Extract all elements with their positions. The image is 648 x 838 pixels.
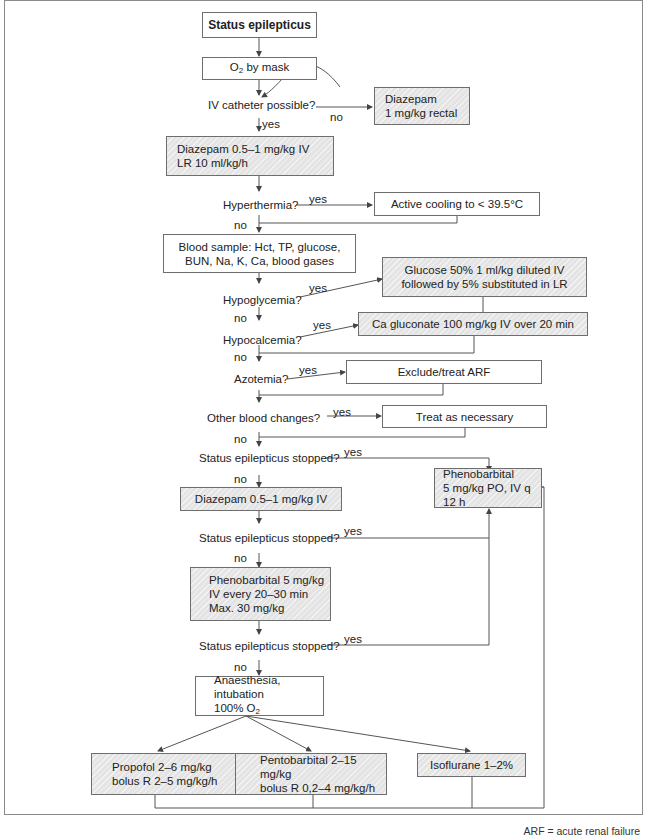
edge-label-no: no xyxy=(234,350,247,364)
node-isoflurane: Isoflurane 1–2% xyxy=(417,753,526,777)
node-active-cooling: Active cooling to < 39.5°C xyxy=(374,192,540,216)
question-iv-catheter: IV catheter possible? xyxy=(208,98,315,112)
node-label: Phenobarbital xyxy=(443,467,514,481)
node-label: Isoflurane 1–2% xyxy=(430,758,513,772)
node-propofol: Propofol 2–6 mg/kg bolus R 2–5 mg/kg/h xyxy=(91,753,237,795)
node-label: IV every 20–30 min xyxy=(209,587,308,601)
node-label: Diazepam xyxy=(385,92,437,106)
node-label: bolus R 2–5 mg/kg/h xyxy=(112,774,217,788)
edge-label-yes: yes xyxy=(299,363,317,377)
node-label: O2 by mask xyxy=(230,60,289,78)
edge-label-no: no xyxy=(234,551,247,565)
edge-label-yes: yes xyxy=(309,281,327,295)
edge-label-yes: yes xyxy=(333,405,351,419)
node-treat-as-necessary: Treat as necessary xyxy=(382,405,547,428)
node-anaesthesia: Anaesthesia, intubation 100% O2 xyxy=(195,676,324,716)
node-label: bolus R 0,2–4 mg/kg/h xyxy=(260,781,375,795)
node-diazepam-iv: Diazepam 0.5–1 mg/kg IV xyxy=(180,487,342,511)
edge-label-no: no xyxy=(234,432,247,446)
question-hypocalcemia: Hypocalcemia? xyxy=(223,333,302,347)
node-label: Max. 30 mg/kg xyxy=(209,601,284,615)
node-label: LR 10 ml/kg/h xyxy=(177,156,248,170)
node-label: followed by 5% substituted in LR xyxy=(401,277,567,291)
node-label: Phenobarbital 5 mg/kg xyxy=(209,573,324,587)
question-azotemia: Azotemia? xyxy=(234,372,288,386)
node-status-epilepticus: Status epilepticus xyxy=(202,12,317,38)
question-stopped-1: Status epilepticus stopped? xyxy=(199,451,340,465)
edge-label-yes: yes xyxy=(344,524,362,538)
edge-label-no: no xyxy=(234,660,247,674)
question-stopped-2: Status epilepticus stopped? xyxy=(199,531,340,545)
node-label: Anaesthesia, intubation xyxy=(214,673,323,701)
question-other-blood-changes: Other blood changes? xyxy=(207,411,320,425)
edge-label-no: no xyxy=(234,218,247,232)
node-label: Diazepam 0.5–1 mg/kg IV xyxy=(195,492,327,506)
edge-label-no: no xyxy=(330,110,343,124)
node-blood-sample: Blood sample: Hct, TP, glucose, BUN, Na,… xyxy=(163,234,356,273)
question-hypoglycemia: Hypoglycemia? xyxy=(223,293,302,307)
node-label: 1 mg/kg rectal xyxy=(385,106,457,120)
node-label: Pentobarbital 2–15 mg/kg xyxy=(260,753,386,781)
node-glucose: Glucose 50% 1 ml/kg diluted IV followed … xyxy=(382,257,587,297)
edge-label-no: no xyxy=(234,472,247,486)
node-label: 100% O2 xyxy=(214,701,260,719)
node-label: Treat as necessary xyxy=(416,410,513,424)
connector-lines xyxy=(0,0,648,838)
node-pentobarbital: Pentobarbital 2–15 mg/kg bolus R 0,2–4 m… xyxy=(235,753,387,795)
node-diazepam-rectal: Diazepam 1 mg/kg rectal xyxy=(374,87,470,125)
edge-label-yes: yes xyxy=(309,192,327,206)
node-label: Active cooling to < 39.5°C xyxy=(391,197,523,211)
node-label: Glucose 50% 1 ml/kg diluted IV xyxy=(405,263,565,277)
edge-label-no: no xyxy=(234,311,247,325)
node-phenobarbital-loading: Phenobarbital 5 mg/kg IV every 20–30 min… xyxy=(190,567,331,621)
node-label: Diazepam 0.5–1 mg/kg IV xyxy=(177,142,309,156)
node-label: Exclude/treat ARF xyxy=(398,365,491,379)
edge-label-yes: yes xyxy=(262,117,280,131)
footnote: ARF = acute renal failure xyxy=(524,825,640,837)
question-stopped-3: Status epilepticus stopped? xyxy=(199,639,340,653)
edge-label-yes: yes xyxy=(344,632,362,646)
edge-label-yes: yes xyxy=(344,445,362,459)
node-exclude-arf: Exclude/treat ARF xyxy=(346,360,542,384)
node-label: Status epilepticus xyxy=(208,18,311,32)
node-label: Ca gluconate 100 mg/kg IV over 20 min xyxy=(372,317,574,331)
node-label: Propofol 2–6 mg/kg xyxy=(112,760,212,774)
edge-label-yes: yes xyxy=(313,318,331,332)
node-ca-gluconate: Ca gluconate 100 mg/kg IV over 20 min xyxy=(358,312,588,336)
node-o2-by-mask: O2 by mask xyxy=(202,57,317,80)
node-label: BUN, Na, K, Ca, blood gases xyxy=(185,254,334,268)
question-hyperthermia: Hyperthermia? xyxy=(223,198,298,212)
node-diazepam-iv-lr: Diazepam 0.5–1 mg/kg IV LR 10 ml/kg/h xyxy=(166,136,334,176)
node-label: 5 mg/kg PO, IV q 12 h xyxy=(443,481,541,509)
node-phenobarbital-maintenance: Phenobarbital 5 mg/kg PO, IV q 12 h xyxy=(434,468,542,508)
node-label: Blood sample: Hct, TP, glucose, xyxy=(179,240,341,254)
